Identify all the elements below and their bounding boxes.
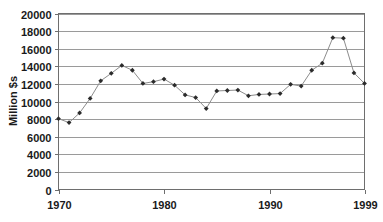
series-markers	[56, 35, 367, 125]
axis-lines	[58, 13, 365, 190]
x-axis-tick-labels: 1970198019901999	[47, 199, 377, 211]
y-axis-tick-labels: 0200040006000800010000120001400016000180…	[21, 9, 52, 197]
gridlines	[59, 15, 365, 173]
x-tick-label: 1999	[353, 199, 377, 211]
x-tick-label: 1990	[258, 199, 282, 211]
y-tick-label: 6000	[27, 132, 51, 144]
data-point-marker	[257, 92, 262, 97]
data-point-marker	[225, 88, 230, 93]
data-point-marker	[341, 36, 346, 41]
y-tick-label: 16000	[21, 44, 52, 56]
data-point-marker	[235, 88, 240, 93]
y-axis-title: Million $s	[7, 76, 19, 126]
y-tick-label: 18000	[21, 26, 52, 38]
y-tick-label: 12000	[21, 79, 52, 91]
chart-canvas: 0200040006000800010000120001400016000180…	[0, 0, 383, 222]
y-tick-label: 20000	[21, 9, 52, 21]
y-tick-label: 10000	[21, 97, 52, 109]
data-point-marker	[246, 93, 251, 98]
data-point-marker	[267, 92, 272, 97]
y-tick-label: 0	[45, 185, 51, 197]
x-tick-label: 1980	[152, 199, 176, 211]
y-tick-label: 8000	[27, 114, 51, 126]
series-line-path	[59, 38, 365, 123]
y-tick-label: 4000	[27, 149, 51, 161]
x-tick-label: 1970	[47, 199, 71, 211]
data-point-marker	[56, 116, 61, 121]
y-axis-tick-marks	[55, 15, 59, 191]
data-point-marker	[162, 77, 167, 82]
data-series	[56, 35, 367, 125]
y-tick-label: 14000	[21, 61, 52, 73]
x-axis-tick-marks	[60, 190, 366, 194]
data-point-marker	[214, 89, 219, 94]
data-point-marker	[330, 35, 335, 40]
data-point-marker	[151, 79, 156, 84]
line-chart-figure: 0200040006000800010000120001400016000180…	[0, 0, 383, 222]
y-tick-label: 2000	[27, 167, 51, 179]
